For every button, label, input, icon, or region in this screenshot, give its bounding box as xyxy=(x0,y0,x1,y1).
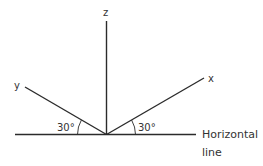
right-angle-arc xyxy=(132,120,136,135)
horizontal-line-label: Horizontal xyxy=(202,128,258,141)
right-angle-label: 30° xyxy=(138,122,156,133)
horizontal-line-label-line2: line xyxy=(202,146,222,159)
left-angle-arc xyxy=(78,120,82,135)
isometric-axes-diagram: z x y 30° 30° Horizontal line xyxy=(0,0,263,166)
left-angle-label: 30° xyxy=(57,122,75,133)
x-axis-label: x xyxy=(208,73,214,84)
z-axis-label: z xyxy=(103,7,108,18)
y-axis-label: y xyxy=(14,80,20,91)
